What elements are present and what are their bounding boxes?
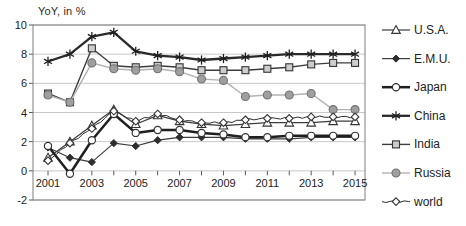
- legend-label-india: India: [414, 137, 440, 151]
- data-point-russia: [88, 59, 96, 67]
- data-point-japan: [198, 129, 205, 136]
- data-point-world: [242, 116, 250, 124]
- y-axis-label: 4: [21, 107, 27, 119]
- x-axis-label: 2007: [167, 177, 191, 189]
- x-axis-label: 2015: [343, 177, 367, 189]
- y-axis-label: -2: [17, 194, 27, 206]
- chart-title: YoY, in %: [38, 5, 86, 17]
- legend-marker-emu: [392, 55, 399, 62]
- data-point-japan: [44, 142, 51, 149]
- legend-marker-japan: [392, 84, 399, 91]
- data-point-japan: [351, 132, 358, 139]
- data-point-russia: [44, 91, 52, 99]
- data-point-japan: [66, 170, 73, 177]
- data-point-russia: [198, 75, 206, 83]
- legend-marker-india: [393, 141, 400, 148]
- data-point-japan: [242, 134, 249, 141]
- x-axis-label: 2011: [256, 177, 280, 189]
- data-point-india: [198, 67, 205, 74]
- y-axis-label: 0: [21, 165, 27, 177]
- data-point-japan: [220, 131, 227, 138]
- data-point-japan: [132, 129, 139, 136]
- data-point-world: [351, 113, 359, 121]
- y-axis-label: 2: [21, 136, 27, 148]
- legend-label-russia: Russia: [414, 166, 451, 180]
- data-point-russia: [307, 90, 315, 98]
- data-point-emu: [176, 134, 183, 141]
- data-point-japan: [264, 134, 271, 141]
- data-point-emu: [66, 154, 73, 161]
- data-point-japan: [154, 126, 161, 133]
- legend-label-world: world: [413, 195, 443, 209]
- y-axis-label: 8: [21, 48, 27, 60]
- legend-label-emu: E.M.U.: [414, 52, 451, 66]
- data-point-russia: [176, 68, 184, 76]
- data-point-india: [352, 59, 359, 66]
- data-point-india: [308, 61, 315, 68]
- data-point-india: [264, 65, 271, 72]
- data-point-russia: [241, 92, 249, 100]
- x-axis-label: 2013: [299, 177, 323, 189]
- data-point-japan: [330, 132, 337, 139]
- data-point-russia: [110, 65, 118, 73]
- data-point-india: [286, 64, 293, 71]
- data-point-india: [220, 67, 227, 74]
- data-point-india: [242, 67, 249, 74]
- legend-marker-world: [392, 198, 400, 206]
- data-point-russia: [285, 91, 293, 99]
- data-point-world: [329, 113, 337, 121]
- data-point-russia: [66, 98, 74, 106]
- data-point-emu: [154, 137, 161, 144]
- data-point-russia: [132, 66, 140, 74]
- data-point-world: [285, 115, 293, 123]
- data-point-world: [264, 115, 272, 123]
- x-axis-label: 2005: [123, 177, 147, 189]
- legend-label-japan: Japan: [414, 80, 447, 94]
- x-axis-label: 2009: [211, 177, 235, 189]
- y-axis-label: 10: [15, 19, 27, 31]
- data-point-japan: [176, 126, 183, 133]
- data-point-japan: [308, 132, 315, 139]
- x-axis-label: 2003: [80, 177, 104, 189]
- data-point-emu: [132, 142, 139, 149]
- chart-plot: -202468102001200320052007200920112013201…: [0, 0, 466, 226]
- data-point-japan: [286, 132, 293, 139]
- data-point-japan: [88, 137, 95, 144]
- legend-label-usa: U.S.A.: [414, 23, 449, 37]
- data-point-russia: [219, 76, 227, 84]
- data-point-india: [88, 45, 95, 52]
- data-point-russia: [263, 91, 271, 99]
- data-point-india: [330, 59, 337, 66]
- yoy-growth-chart: YoY, in % -20246810200120032005200720092…: [0, 0, 466, 226]
- x-axis-label: 2001: [36, 177, 60, 189]
- data-point-russia: [154, 65, 162, 73]
- legend-label-china: China: [414, 109, 446, 123]
- y-axis-label: 6: [21, 77, 27, 89]
- data-point-world: [307, 113, 315, 121]
- legend-marker-russia: [392, 169, 400, 177]
